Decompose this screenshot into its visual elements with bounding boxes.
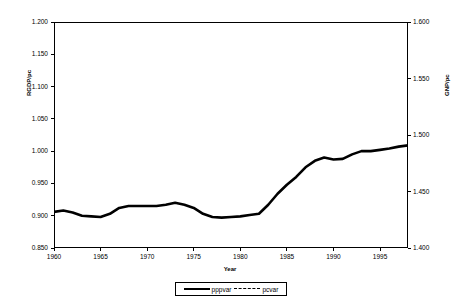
y-tick-left-0.850: 0.850 [14,244,48,251]
y-tick-right-1.400: 1.400 [413,244,447,251]
x-tick-1960: 1960 [34,253,74,260]
tick-mark [51,86,54,87]
x-tick-1980: 1980 [220,253,260,260]
legend-label-pppvar: pppvar [212,286,232,293]
y-tick-left-1.100: 1.100 [14,83,48,90]
tick-mark [240,248,241,251]
tick-mark [193,248,194,251]
chart-figure: RGDP/pc GNP/pc Year 0.8500.9000.9501.000… [0,0,460,306]
tick-mark [51,215,54,216]
x-tick-1975: 1975 [174,253,214,260]
x-tick-1995: 1995 [360,253,400,260]
y-tick-right-1.500: 1.500 [413,131,447,138]
tick-mark [380,248,381,251]
legend-item-pppvar: pppvar [184,285,232,293]
legend-swatch-solid-icon [184,285,210,293]
chart-canvas [54,22,408,248]
x-tick-1985: 1985 [267,253,307,260]
legend-swatch-dashed-icon [234,285,260,293]
x-tick-1965: 1965 [81,253,121,260]
tick-mark [51,151,54,152]
legend-label-pcvar: pcvar [262,286,278,293]
tick-mark [286,248,287,251]
tick-mark [408,248,411,249]
x-tick-1990: 1990 [313,253,353,260]
y-tick-left-0.950: 0.950 [14,179,48,186]
tick-mark [54,248,55,251]
x-tick-1970: 1970 [127,253,167,260]
series-line-pppvar [54,145,408,217]
tick-mark [51,22,54,23]
tick-mark [408,78,411,79]
tick-mark [408,22,411,23]
y-tick-left-0.900: 0.900 [14,212,48,219]
y-tick-left-1.200: 1.200 [14,18,48,25]
legend-item-pcvar: pcvar [234,285,278,293]
tick-mark [408,191,411,192]
tick-mark [51,183,54,184]
tick-mark [408,135,411,136]
x-axis-label: Year [0,266,460,272]
y-tick-right-1.550: 1.550 [413,75,447,82]
y-tick-right-1.450: 1.450 [413,188,447,195]
y-tick-left-1.000: 1.000 [14,147,48,154]
y-tick-left-1.150: 1.150 [14,50,48,57]
tick-mark [100,248,101,251]
tick-mark [147,248,148,251]
y-tick-left-1.050: 1.050 [14,115,48,122]
chart-legend: pppvar pcvar [175,282,287,296]
tick-mark [51,54,54,55]
y-tick-right-1.600: 1.600 [413,18,447,25]
tick-mark [51,118,54,119]
tick-mark [333,248,334,251]
